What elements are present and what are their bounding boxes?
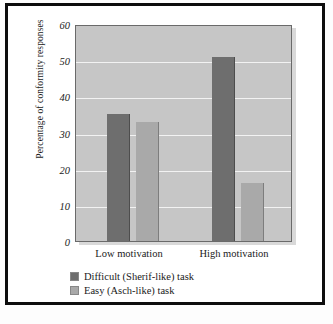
legend-swatch-icon-easy [70, 286, 79, 295]
bar-low-motivation-easy [136, 122, 159, 241]
chart-legend: Difficult (Sherif-like) task Easy (Asch-… [70, 270, 194, 298]
y-tick-label-0: 0 [30, 237, 70, 248]
plot-area [75, 25, 292, 242]
x-tick-label-low-motivation: Low motivation [74, 248, 184, 259]
y-tick-label-20: 20 [30, 164, 70, 175]
bar-chart: Percentage of conformity responses 60 50… [8, 6, 322, 302]
y-tick-label-60: 60 [30, 20, 70, 31]
figure-border-frame: Percentage of conformity responses 60 50… [5, 3, 325, 305]
bar-high-motivation-difficult [212, 57, 235, 242]
legend-label-difficult: Difficult (Sherif-like) task [84, 271, 194, 282]
legend-swatch-icon-difficult [70, 272, 79, 281]
y-tick-label-50: 50 [30, 56, 70, 67]
legend-item-easy: Easy (Asch-like) task [70, 284, 194, 297]
bar-high-motivation-easy [241, 183, 264, 241]
gridline-50 [76, 62, 291, 63]
x-tick-label-high-motivation: High motivation [179, 248, 289, 259]
legend-label-easy: Easy (Asch-like) task [84, 285, 174, 296]
legend-item-difficult: Difficult (Sherif-like) task [70, 270, 194, 283]
y-tick-label-40: 40 [30, 92, 70, 103]
bar-low-motivation-difficult [107, 114, 130, 241]
y-tick-label-30: 30 [30, 128, 70, 139]
gridline-40 [76, 98, 291, 99]
y-tick-label-10: 10 [30, 200, 70, 211]
figure-page: Percentage of conformity responses 60 50… [0, 0, 333, 324]
